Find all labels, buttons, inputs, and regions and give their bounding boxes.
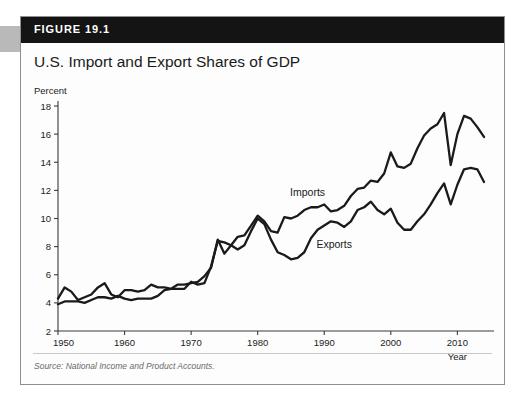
series-line-imports [58,113,484,304]
series-annotation-imports: Imports [290,186,325,198]
y-tick-label: 14 [40,157,51,168]
x-tick-label: 1970 [181,337,202,348]
y-tick-label: 10 [40,213,51,224]
y-tick-label: 4 [46,297,51,308]
y-tick-label: 8 [46,241,51,252]
left-margin-pointer-tab [0,26,22,52]
figure-container: FIGURE 19.1 U.S. Import and Export Share… [20,16,505,385]
x-tick-label: 1960 [114,337,135,348]
y-tick-label: 6 [46,269,51,280]
source-divider [33,353,492,354]
x-tick-label: 2000 [380,337,401,348]
x-tick-label: 2010 [447,337,468,348]
x-tick-label: 1990 [314,337,335,348]
series-line-exports [58,168,484,300]
y-tick-label: 18 [40,101,51,112]
line-chart: 2468101214161819501960197019801990200020… [21,17,506,386]
x-tick-label: 1980 [247,337,268,348]
y-tick-label: 16 [40,129,51,140]
x-tick-label: 1950 [53,337,74,348]
y-tick-label: 2 [46,326,51,337]
y-tick-label: 12 [40,185,51,196]
series-annotation-exports: Exports [316,238,352,250]
source-note: Source: National Income and Product Acco… [34,361,215,371]
